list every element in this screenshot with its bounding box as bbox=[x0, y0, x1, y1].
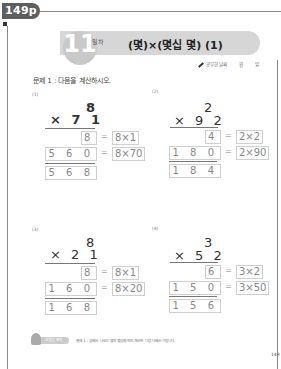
partial-expr-1[interactable]: 2×2 bbox=[236, 130, 263, 144]
partial-expr-1[interactable]: 8×1 bbox=[112, 266, 139, 280]
partial-product-1[interactable]: 6 bbox=[205, 265, 221, 279]
multiplier: × 5 2 bbox=[174, 248, 225, 263]
day-label: 일차 bbox=[92, 37, 104, 46]
problem-label: (2) bbox=[152, 89, 158, 94]
page-title: (몇)×(몇십 몇) (1) bbox=[128, 36, 223, 52]
partial-expr-2[interactable]: 2×90 bbox=[236, 146, 269, 160]
rule-line bbox=[169, 296, 217, 297]
rule-line bbox=[45, 163, 95, 164]
equals-sign: = bbox=[225, 131, 232, 140]
pencil-icon bbox=[198, 62, 204, 67]
rule-line bbox=[170, 262, 218, 263]
rule-line bbox=[45, 298, 95, 299]
equals-sign: = bbox=[225, 147, 232, 156]
rule-line bbox=[170, 127, 218, 128]
equals-sign: = bbox=[101, 132, 108, 141]
teacher-tip-pill: 선생님 조언 bbox=[38, 337, 69, 344]
partial-expr-2[interactable]: 8×70 bbox=[112, 147, 145, 161]
teacher-avatar-icon bbox=[31, 333, 41, 345]
partial-product-2[interactable]: 5 6 0 bbox=[45, 147, 97, 161]
problem-1: 8 × 7 1 8 = 8×1 5 6 0 = 8×70 5 6 8 bbox=[30, 100, 150, 200]
problem-label: (1) bbox=[32, 92, 38, 97]
equals-sign: = bbox=[225, 282, 232, 291]
partial-product-2[interactable]: 1 8 0 bbox=[169, 146, 221, 160]
rule-line bbox=[169, 161, 217, 162]
page-number: 149 bbox=[271, 352, 280, 357]
problem-label: (4) bbox=[152, 226, 158, 231]
equals-sign: = bbox=[225, 266, 232, 275]
problem-4: 3 × 5 2 6 = 3×2 1 5 0 = 3×50 1 5 6 bbox=[160, 238, 280, 338]
instruction: 문제 1 : 다음을 계산하시오. bbox=[33, 75, 111, 85]
equals-sign: = bbox=[101, 267, 108, 276]
study-date-label: 공부한 날짜 bbox=[206, 62, 227, 67]
rule-line bbox=[45, 128, 95, 129]
equals-sign: = bbox=[101, 283, 108, 292]
page-tab: 149p bbox=[2, 3, 40, 19]
partial-product-1[interactable]: 4 bbox=[205, 130, 221, 144]
result-box[interactable]: 5 6 8 bbox=[45, 166, 97, 180]
problem-3: 8 × 2 1 8 = 8×1 1 6 0 = 8×20 1 6 8 bbox=[30, 235, 150, 335]
equals-sign: = bbox=[101, 148, 108, 157]
partial-product-2[interactable]: 1 5 0 bbox=[169, 281, 221, 295]
rule-line bbox=[45, 263, 95, 264]
partial-expr-2[interactable]: 3×50 bbox=[236, 281, 269, 295]
multiplier: × 7 1 bbox=[50, 112, 103, 127]
result-box[interactable]: 1 6 8 bbox=[45, 301, 97, 315]
result-box[interactable]: 1 5 6 bbox=[169, 299, 221, 313]
problem-2: 2 × 9 2 4 = 2×2 1 8 0 = 2×90 1 8 4 bbox=[160, 103, 280, 203]
problem-label: (3) bbox=[32, 227, 38, 232]
multiplier: × 2 1 bbox=[50, 247, 101, 262]
day-label-date: 일 bbox=[255, 62, 259, 67]
partial-product-2[interactable]: 1 6 0 bbox=[45, 282, 97, 296]
partial-expr-1[interactable]: 8×1 bbox=[112, 131, 139, 145]
partial-product-1[interactable]: 8 bbox=[81, 131, 97, 145]
partial-expr-2[interactable]: 8×20 bbox=[112, 282, 145, 296]
partial-product-1[interactable]: 8 bbox=[81, 266, 97, 280]
study-date-row: 공부한 날짜월일 bbox=[198, 61, 267, 67]
multiplier: × 9 2 bbox=[174, 113, 225, 128]
result-box[interactable]: 1 8 4 bbox=[169, 164, 221, 178]
header-divider bbox=[40, 11, 281, 12]
hint-text: 출제 1 : 곱해서 나오는 몇의 몇십을 먼저 계산한 다음 더해서 구합니다… bbox=[76, 338, 175, 343]
partial-expr-1[interactable]: 3×2 bbox=[236, 265, 263, 279]
month-label: 월 bbox=[239, 62, 243, 67]
left-border bbox=[7, 26, 8, 369]
